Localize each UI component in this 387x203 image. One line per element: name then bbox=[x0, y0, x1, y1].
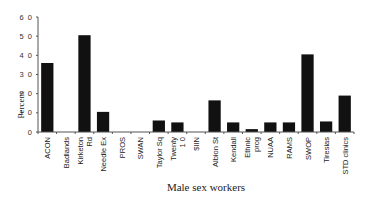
x-tick-label: PROS bbox=[118, 137, 127, 158]
x-tick-label: $IIN bbox=[192, 137, 201, 151]
x-tick-label: Needle Ex bbox=[99, 137, 108, 172]
x-tick-label: Twenty bbox=[169, 137, 178, 161]
bar bbox=[208, 100, 220, 132]
bar bbox=[227, 122, 239, 132]
x-tick-label: NUAA bbox=[266, 137, 275, 158]
x-tick-label: Taylor Sq bbox=[155, 137, 164, 168]
y-tick-label: 0 bbox=[28, 128, 33, 137]
bar-chart: 01 02 03 04 05 06 0 ACONBadlandsKirketon… bbox=[0, 0, 387, 203]
bar bbox=[97, 112, 109, 132]
bar bbox=[320, 121, 332, 132]
x-tick-label: Rd bbox=[85, 137, 94, 147]
x-tick-label: Badlands bbox=[62, 137, 71, 169]
bar bbox=[171, 122, 183, 132]
y-tick-label: 6 0 bbox=[20, 13, 33, 22]
y-tick-label: 4 0 bbox=[20, 51, 33, 60]
bar bbox=[153, 121, 165, 133]
x-tick-label: Kirketon bbox=[76, 137, 85, 165]
x-tick-label: Albion St bbox=[211, 136, 220, 167]
x-tick-label: Ethnic bbox=[243, 137, 252, 158]
x-tick-label: Kendall bbox=[229, 137, 238, 162]
bar bbox=[264, 122, 276, 132]
x-tick-label: STD clinics bbox=[341, 137, 350, 175]
bar bbox=[78, 35, 90, 132]
bar bbox=[283, 122, 295, 132]
bar bbox=[339, 96, 351, 132]
y-tick-label: 3 0 bbox=[20, 70, 33, 79]
x-tick-label: ACON bbox=[43, 137, 52, 159]
x-tick-label: SWOP bbox=[304, 137, 313, 160]
bar bbox=[41, 63, 53, 132]
bars bbox=[41, 35, 351, 132]
x-tick-label: Tiresias bbox=[322, 137, 331, 163]
x-axis-title: Male sex workers bbox=[167, 181, 245, 193]
x-tick-label: RAMS bbox=[285, 137, 294, 159]
y-axis-title: Percent bbox=[16, 91, 26, 118]
y-tick-label: 5 0 bbox=[20, 32, 33, 41]
x-tick-label: prog bbox=[252, 137, 261, 152]
x-axis: ACONBadlandsKirketonRdNeedle ExPROSSWANT… bbox=[38, 132, 354, 175]
x-tick-label: 1 0 bbox=[178, 137, 187, 147]
bar bbox=[301, 54, 313, 132]
x-tick-label: SWAN bbox=[136, 137, 145, 159]
